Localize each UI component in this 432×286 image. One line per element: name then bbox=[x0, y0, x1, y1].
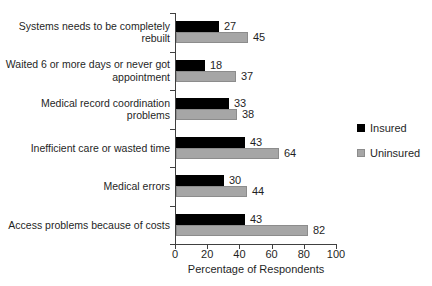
category-label-line: appointment bbox=[112, 71, 170, 84]
x-axis-tick-label: 0 bbox=[158, 248, 192, 260]
bar-uninsured-2 bbox=[176, 109, 237, 120]
category-row-5: 4382 bbox=[176, 206, 337, 245]
y-axis-tick bbox=[170, 90, 175, 91]
bar-insured-2 bbox=[176, 98, 229, 109]
data-label: 82 bbox=[313, 225, 325, 236]
category-row-1: 1837 bbox=[176, 52, 337, 91]
data-label: 27 bbox=[224, 21, 236, 32]
x-axis-tick-label: 100 bbox=[319, 248, 353, 260]
legend: InsuredUninsured bbox=[357, 122, 420, 172]
bar-uninsured-5 bbox=[176, 225, 308, 236]
data-label: 18 bbox=[210, 60, 222, 71]
data-label: 30 bbox=[229, 175, 241, 186]
category-label-1: Waited 6 or more days or never gotappoin… bbox=[0, 52, 170, 91]
bar-insured-0 bbox=[176, 21, 219, 32]
y-axis-tick bbox=[170, 167, 175, 168]
bar-line: 18 bbox=[176, 60, 337, 71]
y-axis-tick bbox=[170, 129, 175, 130]
category-label-line: Inefficient care or wasted time bbox=[31, 142, 170, 155]
data-label: 43 bbox=[250, 214, 262, 225]
legend-label: Uninsured bbox=[370, 147, 420, 159]
bar-line: 38 bbox=[176, 109, 337, 120]
legend-label: Insured bbox=[370, 122, 407, 134]
x-axis-tick-label: 80 bbox=[287, 248, 321, 260]
bar-line: 64 bbox=[176, 148, 337, 159]
category-row-3: 4364 bbox=[176, 129, 337, 168]
bar-uninsured-0 bbox=[176, 32, 248, 43]
bar-line: 45 bbox=[176, 32, 337, 43]
category-label-5: Access problems because of costs bbox=[0, 206, 170, 245]
category-label-line: problems bbox=[127, 109, 170, 122]
data-label: 38 bbox=[242, 109, 254, 120]
bar-line: 44 bbox=[176, 186, 337, 197]
y-axis-tick bbox=[170, 52, 175, 53]
legend-item-insured: Insured bbox=[357, 122, 420, 134]
data-label: 45 bbox=[253, 32, 265, 43]
bar-insured-1 bbox=[176, 60, 205, 71]
data-label: 64 bbox=[284, 148, 296, 159]
category-label-line: rebuilt bbox=[141, 32, 170, 45]
bar-insured-5 bbox=[176, 214, 245, 225]
data-label: 43 bbox=[250, 137, 262, 148]
y-axis-tick bbox=[170, 206, 175, 207]
bar-uninsured-3 bbox=[176, 148, 279, 159]
bar-uninsured-1 bbox=[176, 71, 236, 82]
x-axis-title: Percentage of Respondents bbox=[175, 263, 337, 275]
category-label-line: Medical errors bbox=[103, 180, 170, 193]
bar-line: 43 bbox=[176, 137, 337, 148]
data-label: 44 bbox=[252, 186, 264, 197]
category-label-line: Access problems because of costs bbox=[8, 219, 170, 232]
category-label-2: Medical record coordinationproblems bbox=[0, 90, 170, 129]
bar-insured-4 bbox=[176, 175, 224, 186]
legend-swatch-icon bbox=[357, 149, 365, 157]
category-row-4: 3044 bbox=[176, 167, 337, 206]
category-row-2: 3338 bbox=[176, 90, 337, 129]
plot-area: 274518373338436430444382 bbox=[175, 13, 337, 245]
bar-line: 37 bbox=[176, 71, 337, 82]
bar-line: 82 bbox=[176, 225, 337, 236]
bar-line: 33 bbox=[176, 98, 337, 109]
legend-item-uninsured: Uninsured bbox=[357, 147, 420, 159]
category-label-4: Medical errors bbox=[0, 167, 170, 206]
category-label-line: Systems needs to be completely bbox=[19, 20, 170, 33]
y-axis-tick bbox=[170, 13, 175, 14]
x-axis-tick-label: 40 bbox=[222, 248, 256, 260]
category-label-line: Waited 6 or more days or never got bbox=[6, 58, 170, 71]
bar-chart: Systems needs to be completelyrebuiltWai… bbox=[0, 0, 432, 286]
x-axis-tick-label: 20 bbox=[190, 248, 224, 260]
legend-swatch-icon bbox=[357, 124, 365, 132]
category-label-line: Medical record coordination bbox=[41, 97, 170, 110]
bar-insured-3 bbox=[176, 137, 245, 148]
category-label-0: Systems needs to be completelyrebuilt bbox=[0, 13, 170, 52]
data-label: 37 bbox=[241, 71, 253, 82]
category-label-3: Inefficient care or wasted time bbox=[0, 129, 170, 168]
category-row-0: 2745 bbox=[176, 13, 337, 52]
category-axis-labels: Systems needs to be completelyrebuiltWai… bbox=[0, 13, 170, 244]
x-axis-tick-label: 60 bbox=[255, 248, 289, 260]
bar-uninsured-4 bbox=[176, 186, 247, 197]
